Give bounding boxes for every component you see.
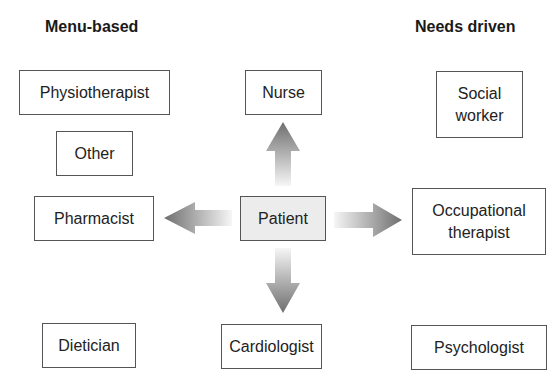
- diagram-canvas: Menu-based Needs driven Physiotherapist …: [0, 0, 559, 381]
- arrow-right-icon: [334, 203, 402, 237]
- arrow-left-icon: [164, 202, 232, 234]
- arrows-layer: [0, 0, 559, 381]
- arrow-down-icon: [266, 248, 300, 313]
- arrow-up-icon: [266, 122, 300, 186]
